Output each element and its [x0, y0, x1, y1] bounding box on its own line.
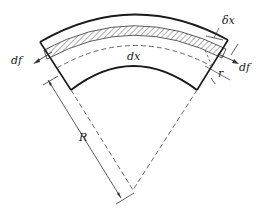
- label-df-right: df: [239, 61, 252, 74]
- label-delta-x: δx: [222, 14, 236, 27]
- r-arrow-top: [231, 44, 238, 55]
- inner-arc: [71, 66, 197, 90]
- curved-beam-diagram: df df dx δx r R: [0, 0, 265, 209]
- label-R: R: [78, 131, 87, 144]
- label-r: r: [218, 67, 224, 80]
- df-right-arrowhead: [232, 59, 239, 64]
- label-df-left: df: [11, 54, 24, 67]
- df-left-arrowhead: [33, 58, 40, 64]
- radial-line-right: [133, 90, 197, 190]
- label-dx: dx: [127, 50, 141, 63]
- r-arrow-bottom: [211, 78, 215, 84]
